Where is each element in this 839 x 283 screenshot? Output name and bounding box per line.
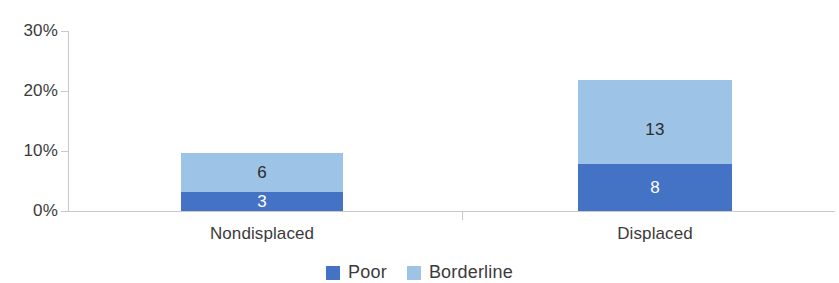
bar-stack-nondisplaced[interactable]: 6 3 — [181, 153, 343, 211]
bar-segment-borderline[interactable]: 6 — [181, 153, 343, 192]
bar-segment-poor[interactable]: 3 — [181, 192, 343, 211]
y-axis-line — [68, 31, 69, 212]
stacked-bar-chart: 30% 20% 10% 0% 6 3 13 8 — [0, 0, 839, 283]
bar-value-label: 3 — [257, 193, 267, 210]
legend-item-label: Poor — [348, 263, 387, 281]
bar-segment-poor[interactable]: 8 — [578, 164, 732, 211]
y-axis-tick-30 — [61, 31, 69, 32]
bar-stack-displaced[interactable]: 13 8 — [578, 80, 732, 211]
chart-legend: Poor Borderline — [0, 263, 839, 281]
bar-value-label: 6 — [257, 164, 267, 181]
x-axis-category-label-displaced: Displaced — [575, 224, 735, 244]
legend-swatch-icon — [407, 266, 421, 280]
legend-item-borderline[interactable]: Borderline — [407, 263, 513, 281]
legend-item-poor[interactable]: Poor — [326, 263, 387, 281]
bar-value-label: 13 — [645, 121, 664, 138]
y-axis-label-10: 10% — [2, 142, 58, 159]
y-axis-label-0: 0% — [2, 202, 58, 219]
bar-value-label: 8 — [650, 179, 660, 196]
y-axis-tick-20 — [61, 91, 69, 92]
y-axis-label-30: 30% — [2, 22, 58, 39]
plot-area: 30% 20% 10% 0% 6 3 13 8 — [0, 0, 839, 283]
x-axis-line — [68, 211, 835, 212]
x-axis-category-label-nondisplaced: Nondisplaced — [182, 224, 342, 244]
y-axis-tick-10 — [61, 151, 69, 152]
y-axis-label-20: 20% — [2, 82, 58, 99]
bar-segment-borderline[interactable]: 13 — [578, 80, 732, 164]
x-axis-separator-tick — [462, 212, 463, 220]
legend-swatch-icon — [326, 266, 340, 280]
legend-item-label: Borderline — [429, 263, 513, 281]
